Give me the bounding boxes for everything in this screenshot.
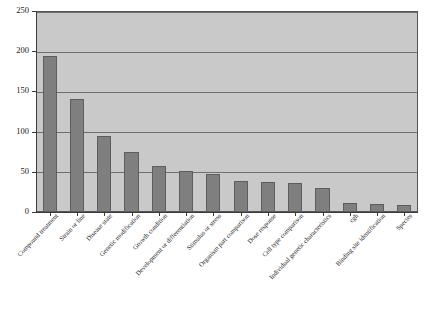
y-tick-label: 250 xyxy=(16,5,29,15)
bar xyxy=(261,182,275,212)
bar xyxy=(124,152,138,212)
x-tick-label: Disease state xyxy=(85,212,114,243)
bar xyxy=(206,174,220,212)
x-tick-label: Compound treatment xyxy=(16,212,60,258)
bar xyxy=(43,56,57,212)
x-axis-labels: Compound treatmentStrain or lineDisease … xyxy=(0,212,429,315)
bar xyxy=(315,188,329,212)
bar xyxy=(370,204,384,212)
bar-chart: 050100150200250 Compound treatmentStrain… xyxy=(0,0,429,315)
bar-series xyxy=(36,11,418,212)
x-tick-label: cgh xyxy=(347,212,359,224)
bar xyxy=(152,166,166,212)
x-tick-label: Organism part comparison xyxy=(197,212,251,269)
bar xyxy=(234,181,248,212)
y-tick-label: 200 xyxy=(16,45,29,55)
x-tick-label: Species xyxy=(395,212,415,232)
bar xyxy=(397,205,411,212)
bar xyxy=(97,136,111,212)
y-tick-label: 50 xyxy=(21,166,30,176)
bar xyxy=(343,203,357,212)
bar xyxy=(288,183,302,212)
bar xyxy=(70,99,84,212)
x-tick-label: Binding site identification xyxy=(334,212,387,268)
y-tick-label: 150 xyxy=(16,85,29,95)
y-tick-label: 100 xyxy=(16,126,29,136)
bar xyxy=(179,171,193,212)
x-tick-label: Strain or line xyxy=(57,212,86,243)
